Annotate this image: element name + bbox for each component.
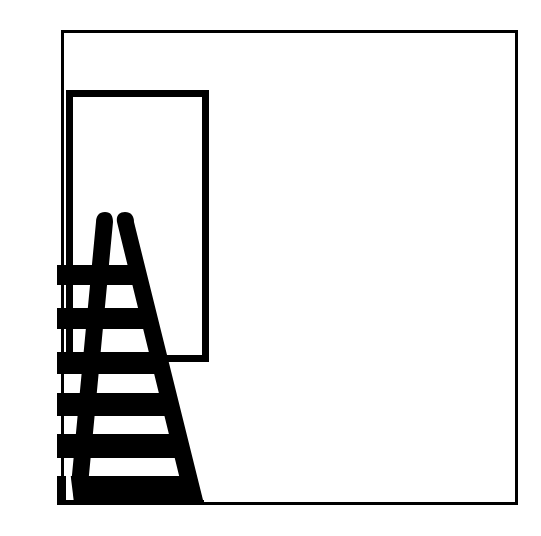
- scene-illustration: [0, 0, 541, 536]
- stepladder-base-shadow: [57, 500, 204, 505]
- stepladder-rung-3: [57, 352, 164, 374]
- stepladder-rung-4: [57, 393, 176, 416]
- figure-panel: B: [0, 0, 541, 536]
